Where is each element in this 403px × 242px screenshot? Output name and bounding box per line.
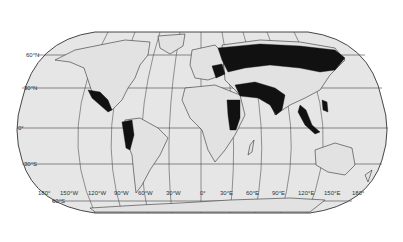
lon-label: 60°W <box>138 190 153 196</box>
lon-label: 150°W <box>60 190 78 196</box>
lat-label-30n: 30°N <box>24 85 37 91</box>
lat-label-60s: 60°S <box>52 198 65 204</box>
lon-label: 150°E <box>324 190 340 196</box>
lat-label-60n: 60°N <box>26 52 39 58</box>
lon-label: 30°E <box>220 190 233 196</box>
lon-label: 90°W <box>114 190 129 196</box>
lon-label: 30°W <box>166 190 181 196</box>
lon-label: 180° <box>352 190 364 196</box>
lon-label: 120°E <box>298 190 314 196</box>
lon-label: 0° <box>200 190 206 196</box>
lon-label: 90°E <box>272 190 285 196</box>
lon-label: 60°E <box>246 190 259 196</box>
lat-label-equator: 0° <box>18 125 24 131</box>
world-map <box>0 0 403 242</box>
lon-label: 180° <box>38 190 50 196</box>
lat-label-30s: 30°S <box>24 161 37 167</box>
lon-label: 120°W <box>88 190 106 196</box>
